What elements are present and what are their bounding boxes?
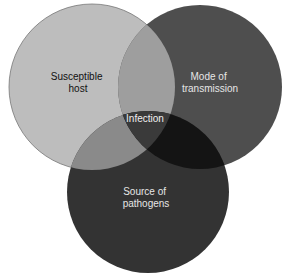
venn-diagram: Susceptible host Mode of transmission So…	[0, 0, 285, 280]
label-source-of-pathogens: Source of pathogens	[123, 186, 170, 209]
label-infection: Infection	[126, 113, 164, 124]
